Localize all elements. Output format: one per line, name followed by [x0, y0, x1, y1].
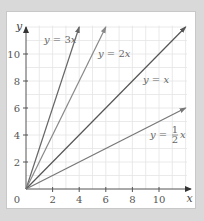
y-tick-label: 6 — [14, 103, 20, 114]
line-chart: 2468102468100xy y = 3xy = 2xy = xy = 12x — [0, 0, 204, 221]
y-axis-label: y — [15, 20, 23, 33]
origin-label: 0 — [14, 194, 20, 205]
x-axis-label: x — [186, 192, 193, 205]
x-tick-label: 6 — [103, 194, 109, 205]
label-variable: x — [180, 129, 186, 140]
y-tick-label: 10 — [7, 49, 20, 60]
x-tick-label: 10 — [153, 194, 166, 205]
fraction-denominator: 2 — [172, 134, 178, 145]
x-tick-label: 8 — [129, 194, 135, 205]
y-tick-label: 8 — [14, 76, 20, 87]
label-3x: y = 3x — [43, 34, 77, 45]
y-tick-label: 4 — [14, 130, 20, 141]
label-half-x: y = — [149, 129, 167, 140]
x-tick-label: 2 — [49, 194, 55, 205]
y-tick-label: 2 — [14, 157, 20, 168]
series-labels: y = 3xy = 2xy = xy = 12x — [43, 34, 186, 145]
x-tick-label: 4 — [76, 194, 82, 205]
label-x: y = x — [142, 74, 169, 85]
label-2x: y = 2x — [97, 48, 131, 59]
